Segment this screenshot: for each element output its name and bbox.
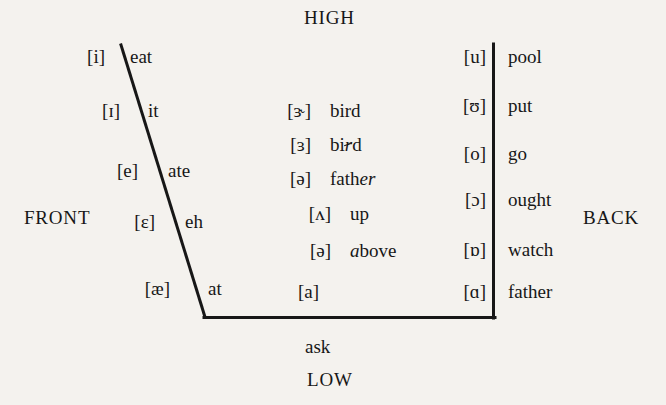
- axis-label-high: HIGH: [304, 8, 355, 27]
- vowel-chart: HIGH LOW FRONT BACK [i] eat [ɪ] it [e] a…: [0, 0, 666, 405]
- vowel-symbol-u: [u]: [450, 46, 486, 68]
- vowel-word-at: at: [208, 278, 222, 300]
- struck-r-glyph: r: [345, 134, 352, 156]
- vowel-word-ask: ask: [305, 337, 330, 356]
- bird-suffix: d: [352, 134, 362, 155]
- vowel-symbol-script-a: [ɑ]: [450, 281, 486, 303]
- axis-label-low: LOW: [307, 370, 353, 389]
- vowel-word-bird-non-rhotic: bird: [330, 134, 362, 156]
- vowel-symbol-open-o: [ɔ]: [450, 189, 486, 211]
- vowel-word-watch: watch: [508, 239, 553, 261]
- vowel-symbol-schwa-above: [ə]: [295, 240, 331, 262]
- axis-label-back: BACK: [583, 208, 639, 227]
- axis-label-front: FRONT: [24, 208, 90, 227]
- vowel-word-it: it: [148, 100, 159, 122]
- father-er-italic: er: [360, 168, 376, 189]
- vowel-word-pool: pool: [508, 46, 542, 68]
- vowel-symbol-schwa-father: [ə]: [275, 168, 311, 190]
- above-suffix: bove: [360, 240, 397, 261]
- vowel-word-father-back: father: [508, 281, 552, 303]
- vowel-symbol-open-front-a: [a]: [283, 281, 319, 303]
- vowel-word-above: above: [350, 240, 396, 262]
- vowel-symbol-upsilon: [ʊ]: [450, 95, 486, 117]
- vowel-symbol-small-capital-i: [ɪ]: [65, 100, 120, 122]
- bird-prefix: bi: [330, 134, 345, 155]
- vowel-word-father-schwa: father: [330, 168, 375, 190]
- father-stem: fath: [330, 168, 360, 189]
- vowel-symbol-ash: [æ]: [115, 278, 170, 300]
- above-a-italic: a: [350, 240, 360, 261]
- vowel-word-eh: eh: [185, 211, 203, 233]
- vowel-word-bird-rhotic: bird: [330, 100, 361, 122]
- vowel-symbol-e: [e]: [83, 160, 138, 182]
- vowel-word-put: put: [508, 95, 532, 117]
- vowel-word-ought: ought: [508, 189, 551, 211]
- vowel-word-go: go: [508, 143, 527, 165]
- vowel-symbol-r-colored-schwa: [ɝ]: [275, 100, 311, 122]
- vowel-symbol-reversed-epsilon: [ɜ]: [275, 134, 311, 156]
- vowel-word-eat: eat: [130, 46, 152, 68]
- vowel-symbol-o: [o]: [450, 143, 486, 165]
- vowel-word-ate: ate: [168, 160, 190, 182]
- vowel-symbol-turned-v: [ʌ]: [295, 203, 331, 225]
- vowel-symbol-i: [i]: [50, 46, 105, 68]
- vowel-symbol-turned-script-a: [ɒ]: [450, 239, 486, 261]
- vowel-symbol-epsilon: [ɛ]: [100, 211, 155, 233]
- vowel-word-up: up: [350, 203, 369, 225]
